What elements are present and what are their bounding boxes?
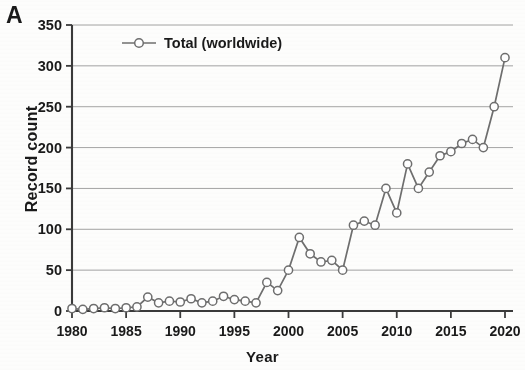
- y-tick-label: 0: [54, 303, 62, 319]
- x-tick-label: 2020: [489, 323, 520, 339]
- data-point: [328, 256, 336, 264]
- data-point: [371, 221, 379, 229]
- data-point: [219, 292, 227, 300]
- data-point: [165, 297, 173, 305]
- data-point: [79, 305, 87, 313]
- x-tick-label: 2005: [327, 323, 358, 339]
- data-point: [111, 304, 119, 312]
- data-point: [425, 168, 433, 176]
- gridlines: [72, 25, 513, 270]
- data-point: [176, 298, 184, 306]
- data-point: [252, 299, 260, 307]
- data-point: [133, 303, 141, 311]
- data-point: [241, 297, 249, 305]
- y-tick-label: 300: [38, 58, 62, 74]
- data-point: [155, 299, 163, 307]
- data-point: [198, 299, 206, 307]
- figure-panel: A Record count Year 35030025020015010050…: [0, 0, 525, 370]
- data-point: [393, 209, 401, 217]
- y-tick-label: 50: [46, 262, 62, 278]
- line-chart: 350300250200150100500 198019851990199520…: [0, 0, 525, 370]
- data-point: [295, 233, 303, 241]
- data-point: [468, 135, 476, 143]
- data-point: [349, 221, 357, 229]
- y-tick-label: 100: [38, 221, 62, 237]
- data-point: [479, 143, 487, 151]
- y-tick-label: 250: [38, 99, 62, 115]
- data-point: [501, 54, 509, 62]
- data-point: [100, 304, 108, 312]
- y-tick-label: 350: [38, 17, 62, 33]
- data-point: [284, 266, 292, 274]
- y-axis-ticks: 350300250200150100500: [38, 17, 72, 319]
- data-point: [209, 297, 217, 305]
- chart-legend: Total (worldwide): [122, 35, 282, 51]
- data-point: [122, 304, 130, 312]
- x-axis-ticks: 198019851990199520002005201020152020: [56, 311, 520, 339]
- data-point: [403, 160, 411, 168]
- data-point: [382, 184, 390, 192]
- data-point: [360, 217, 368, 225]
- x-tick-label: 2015: [435, 323, 466, 339]
- data-point: [447, 148, 455, 156]
- data-point: [436, 152, 444, 160]
- data-point: [263, 278, 271, 286]
- data-point: [414, 184, 422, 192]
- data-point: [68, 304, 76, 312]
- data-point: [458, 139, 466, 147]
- legend-marker: [135, 39, 144, 48]
- x-tick-label: 1985: [111, 323, 142, 339]
- data-series-total-worldwide: [68, 54, 509, 314]
- data-point: [490, 103, 498, 111]
- data-point: [317, 258, 325, 266]
- x-tick-label: 2000: [273, 323, 304, 339]
- data-point: [187, 295, 195, 303]
- x-tick-label: 1990: [165, 323, 196, 339]
- legend-label: Total (worldwide): [164, 35, 282, 51]
- data-point: [90, 304, 98, 312]
- x-tick-label: 2010: [381, 323, 412, 339]
- data-point: [144, 293, 152, 301]
- y-tick-label: 150: [38, 180, 62, 196]
- y-tick-label: 200: [38, 140, 62, 156]
- data-point: [306, 250, 314, 258]
- x-tick-label: 1995: [219, 323, 250, 339]
- data-point: [274, 286, 282, 294]
- x-tick-label: 1980: [56, 323, 87, 339]
- data-point: [230, 295, 238, 303]
- data-point: [339, 266, 347, 274]
